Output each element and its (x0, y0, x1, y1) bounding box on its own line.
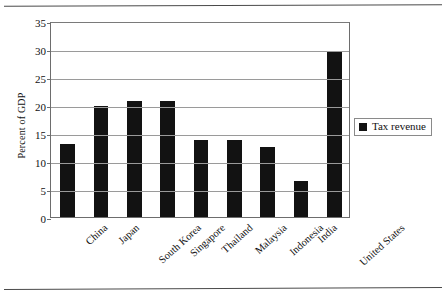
bar[interactable] (260, 147, 275, 217)
bar[interactable] (194, 140, 209, 217)
y-tick-mark-15 (47, 135, 51, 136)
y-tick-mark-35 (47, 23, 51, 24)
gridline-15 (51, 135, 349, 136)
y-tick-label-10: 10 (35, 158, 46, 169)
tax-revenue-bar-chart: Percent of GDP 05101520253035 ChinaJapan… (0, 0, 446, 304)
bar-slot (151, 23, 184, 217)
x-label: China (83, 222, 109, 247)
bar-slot (251, 23, 284, 217)
bar-slot (284, 23, 317, 217)
bar-slot (84, 23, 117, 217)
y-tick-label-15: 15 (35, 130, 46, 141)
bar[interactable] (294, 181, 309, 217)
gridline-10 (51, 163, 349, 164)
bar-slot (118, 23, 151, 217)
y-tick-mark-30 (47, 51, 51, 52)
gridline-25 (51, 79, 349, 80)
y-tick-label-35: 35 (35, 18, 46, 29)
gridline-5 (51, 191, 349, 192)
bars-layer (51, 23, 349, 217)
x-label: United States (358, 222, 407, 268)
bar[interactable] (127, 101, 142, 217)
chart-legend: Tax revenue (354, 118, 432, 136)
bar[interactable] (160, 101, 175, 217)
y-tick-mark-20 (47, 107, 51, 108)
bar-slot (51, 23, 84, 217)
y-tick-mark-25 (47, 79, 51, 80)
y-tick-mark-5 (47, 191, 51, 192)
bar[interactable] (227, 140, 242, 217)
page-rule-top (4, 4, 442, 7)
gridline-30 (51, 51, 349, 52)
bar-slot (218, 23, 251, 217)
y-axis-title: Percent of GDP (16, 66, 27, 186)
y-tick-label-25: 25 (35, 74, 46, 85)
x-label: Malaysia (253, 222, 289, 256)
gridline-20 (51, 107, 349, 108)
bar-slot (184, 23, 217, 217)
plot-area: 05101520253035 (50, 22, 350, 218)
bar[interactable] (94, 106, 109, 217)
legend-label-tax-revenue: Tax revenue (372, 121, 426, 132)
y-tick-label-0: 0 (41, 214, 47, 225)
bar-slot (318, 23, 351, 217)
y-tick-mark-10 (47, 163, 51, 164)
x-axis-labels: ChinaJapanSouth KoreaSingaporeThailandMa… (50, 218, 350, 298)
x-label: Japan (116, 222, 141, 246)
legend-swatch-tax-revenue (359, 123, 367, 131)
bar[interactable] (60, 144, 75, 217)
y-tick-label-5: 5 (41, 186, 47, 197)
y-tick-label-30: 30 (35, 46, 46, 57)
y-tick-label-20: 20 (35, 102, 46, 113)
